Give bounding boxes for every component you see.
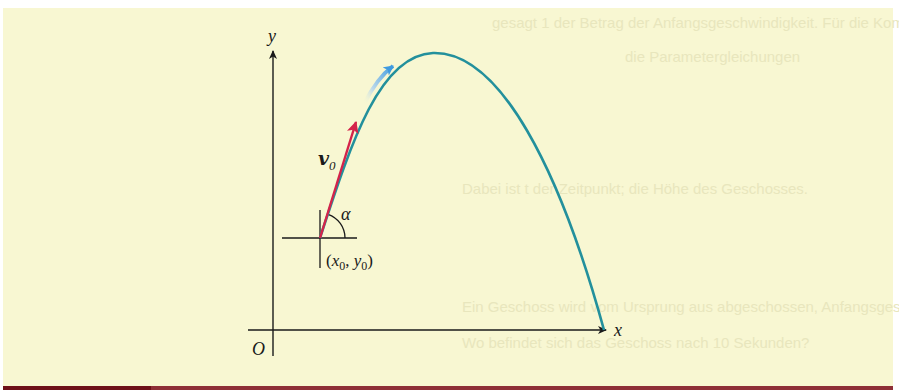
trajectory-curve	[320, 53, 604, 330]
y-axis-label: y	[266, 26, 276, 46]
velocity-label: v0	[318, 147, 336, 173]
x-axis-label: x	[613, 320, 622, 340]
origin-label: O	[252, 339, 265, 359]
launch-point-label: (x0, y0)	[326, 251, 373, 273]
angle-alpha-label: α	[341, 204, 351, 224]
bottom-rule-accent	[3, 386, 151, 390]
trajectory-direction-arrow	[364, 66, 393, 104]
projectile-diagram: y x O α v0 (x0, y0)	[0, 0, 899, 390]
